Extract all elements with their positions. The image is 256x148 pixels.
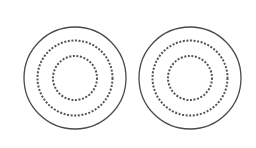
right-inner-dotted-circle xyxy=(168,56,212,100)
right-concentric-circles xyxy=(139,27,241,129)
left-concentric-circles xyxy=(24,27,126,129)
right-outer-solid-circle xyxy=(139,27,241,129)
left-outer-solid-circle xyxy=(24,27,126,129)
left-inner-dotted-circle xyxy=(53,56,97,100)
right-middle-dotted-circle xyxy=(153,41,228,116)
concentric-circles-diagram xyxy=(0,0,256,148)
left-middle-dotted-circle xyxy=(38,41,113,116)
